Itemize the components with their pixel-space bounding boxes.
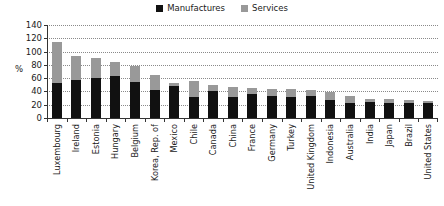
x-label-slot: Estonia [86, 124, 106, 206]
bar-slot [164, 25, 184, 118]
bar-segment-services [71, 56, 81, 80]
bar-slot [223, 25, 243, 118]
bar-slot [262, 25, 282, 118]
stacked-bar [404, 100, 414, 118]
bar-segment-services [52, 42, 62, 84]
stacked-bar [169, 83, 179, 118]
y-tick-label: 100 [18, 47, 42, 57]
stacked-bar [325, 92, 335, 118]
x-axis-ticks [47, 118, 438, 122]
stacked-bar [91, 58, 101, 118]
stacked-bar [384, 99, 394, 118]
x-tick-mark [282, 118, 283, 122]
bar-segment-services [228, 87, 238, 96]
bar-slot [282, 25, 302, 118]
stacked-bar-chart: Manufactures Services % 1401201008060402… [0, 0, 444, 206]
x-tick-slot [262, 118, 282, 122]
x-label-slot: China [223, 124, 243, 206]
x-tick-mark [164, 118, 165, 122]
bar-segment-services [345, 96, 355, 103]
bar-segment-manufactures [71, 80, 81, 118]
x-tick-label: United Kingdom [307, 124, 315, 190]
x-axis-labels: LuxembourgIrelandEstoniaHungaryBelgiumKo… [47, 124, 438, 206]
bar-segment-services [267, 89, 277, 96]
x-tick-label: India [365, 124, 373, 144]
x-tick-slot [145, 118, 165, 122]
x-tick-mark [145, 118, 146, 122]
stacked-bar [247, 88, 257, 118]
x-tick-mark [360, 118, 361, 122]
bar-segment-manufactures [267, 96, 277, 118]
bar-slot [242, 25, 262, 118]
x-label-slot: Belgium [125, 124, 145, 206]
x-tick-slot [399, 118, 419, 122]
bar-slot [418, 25, 438, 118]
x-label-slot: United Kingdom [301, 124, 321, 206]
x-label-slot: Brazil [399, 124, 419, 206]
x-tick-label: China [229, 124, 237, 147]
bar-segment-services [91, 58, 101, 79]
x-tick-mark [262, 118, 263, 122]
x-label-slot: Mexico [164, 124, 184, 206]
bar-segment-services [286, 89, 296, 96]
x-tick-label: France [248, 124, 256, 151]
bar-segment-manufactures [345, 103, 355, 118]
bar-segment-manufactures [208, 91, 218, 118]
stacked-bar [130, 66, 140, 118]
bar-segment-services [189, 81, 199, 97]
bar-slot [360, 25, 380, 118]
x-label-slot: France [242, 124, 262, 206]
x-label-slot: Ireland [67, 124, 87, 206]
bar-segment-manufactures [150, 90, 160, 118]
x-tick-mark [86, 118, 87, 122]
bar-segment-manufactures [325, 100, 335, 118]
y-tick-label: 0 [18, 113, 42, 123]
bar-slot [145, 25, 165, 118]
x-label-slot: Chile [184, 124, 204, 206]
x-tick-label: Luxembourg [53, 124, 61, 175]
x-tick-slot [223, 118, 243, 122]
x-label-slot: Indonesia [321, 124, 341, 206]
bar-slot [321, 25, 341, 118]
bar-segment-manufactures [52, 83, 62, 118]
x-tick-slot [67, 118, 87, 122]
x-tick-label: Brazil [405, 124, 413, 147]
x-tick-mark [379, 118, 380, 122]
bar-segment-services [150, 75, 160, 90]
x-tick-label: Turkey [287, 124, 295, 151]
x-tick-label: Japan [385, 124, 393, 147]
y-tick-label: 80 [18, 60, 42, 70]
x-tick-mark [301, 118, 302, 122]
bar-slot [301, 25, 321, 118]
x-tick-label: Indonesia [326, 124, 334, 164]
stacked-bar [71, 56, 81, 118]
x-tick-label: United States [424, 124, 432, 179]
plot-area: % 140120100806040200 LuxembourgIrelandEs… [0, 0, 444, 206]
y-tick-label: 40 [18, 86, 42, 96]
x-tick-slot [360, 118, 380, 122]
x-tick-label: Ireland [72, 124, 80, 152]
y-tick-label: 140 [18, 20, 42, 30]
bar-segment-services [208, 85, 218, 92]
x-tick-mark [125, 118, 126, 122]
x-tick-slot [242, 118, 262, 122]
bar-segment-manufactures [169, 86, 179, 118]
bar-segment-manufactures [306, 96, 316, 118]
bar-segment-manufactures [404, 103, 414, 118]
bar-segment-manufactures [384, 103, 394, 118]
x-tick-label: Germany [268, 124, 276, 162]
x-tick-label: Chile [189, 124, 197, 145]
stacked-bar [189, 81, 199, 118]
bar-segment-manufactures [130, 82, 140, 118]
bar-segment-manufactures [110, 76, 120, 118]
x-tick-slot [125, 118, 145, 122]
x-tick-mark [321, 118, 322, 122]
x-tick-slot [418, 118, 438, 122]
bar-slot [47, 25, 67, 118]
x-tick-mark [242, 118, 243, 122]
x-tick-slot [321, 118, 341, 122]
bar-slot [379, 25, 399, 118]
x-tick-slot [379, 118, 399, 122]
bar-segment-manufactures [91, 78, 101, 118]
stacked-bar [208, 85, 218, 118]
